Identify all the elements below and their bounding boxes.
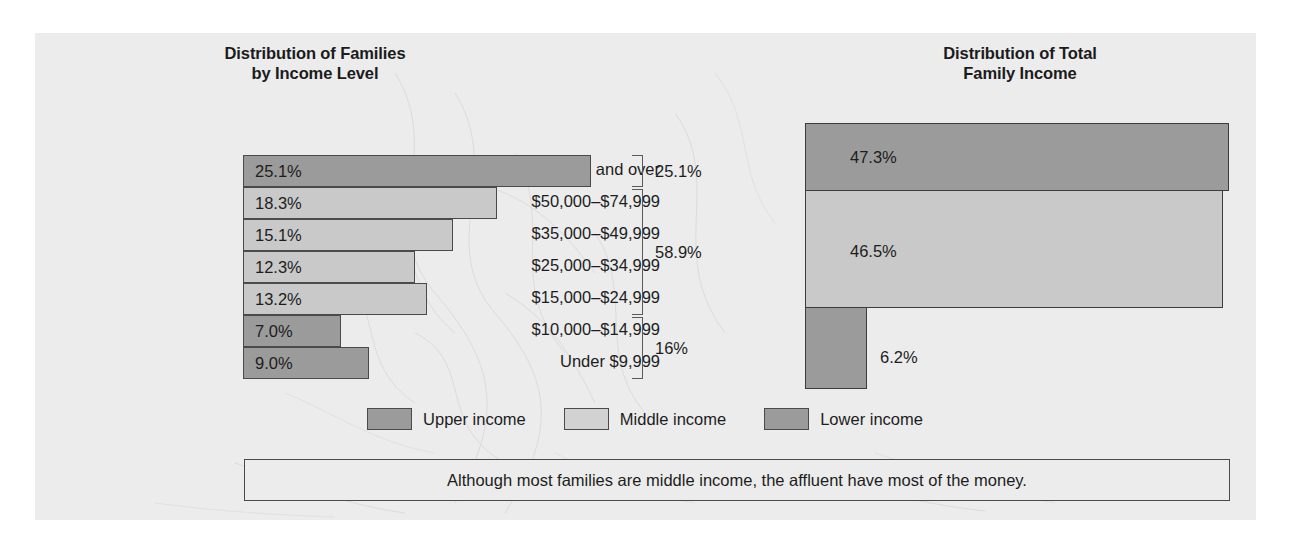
legend-item-middle-income: Middle income <box>564 408 726 430</box>
legend-item-upper-income: Upper income <box>367 408 526 430</box>
legend-swatch-upper-income <box>367 408 412 430</box>
caption-box: Although most families are middle income… <box>244 459 1230 501</box>
vbar-value-upper: 47.3% <box>850 148 897 167</box>
legend-item-lower-income: Lower income <box>764 408 923 430</box>
legend-swatch-middle-income <box>564 408 609 430</box>
legend: Upper income Middle income Lower income <box>0 408 1290 430</box>
legend-label-upper-income: Upper income <box>423 410 526 429</box>
caption-text: Although most families are middle income… <box>447 471 1027 490</box>
vbar-value-lower: 6.2% <box>880 348 918 367</box>
figure-page: Distribution of Families by Income Level… <box>0 0 1290 554</box>
right-chart-title-line2: Family Income <box>855 63 1185 83</box>
vbar-lower-income <box>805 307 867 389</box>
vbar-value-middle: 46.5% <box>850 242 897 261</box>
right-chart-title: Distribution of Total Family Income <box>855 43 1185 83</box>
legend-swatch-lower-income <box>764 408 809 430</box>
legend-label-lower-income: Lower income <box>820 410 923 429</box>
right-chart-title-line1: Distribution of Total <box>855 43 1185 63</box>
right-chart: Distribution of Total Family Income 47.3… <box>0 0 1290 410</box>
legend-label-middle-income: Middle income <box>620 410 726 429</box>
